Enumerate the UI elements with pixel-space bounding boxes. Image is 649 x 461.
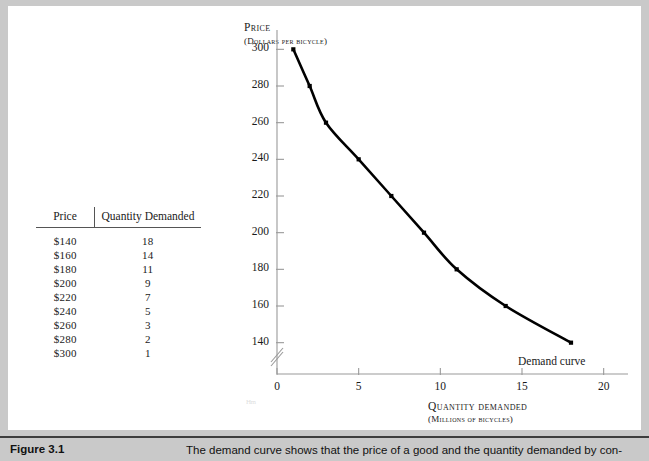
- cell-price: $200: [36, 276, 94, 290]
- data-point-marker: [455, 267, 459, 271]
- figure-number: Figure 3.1: [10, 443, 64, 455]
- data-point-marker: [504, 304, 508, 308]
- table-row: $14018: [36, 228, 201, 249]
- table-row: $2009: [36, 276, 201, 290]
- table-row: $2603: [36, 318, 201, 332]
- demand-curve-chart: Price (Dollars per bicycle) Quantity dem…: [230, 14, 640, 426]
- data-point-marker: [308, 84, 312, 88]
- table-row: $18011: [36, 262, 201, 276]
- cell-price: $160: [36, 248, 94, 262]
- y-axis-tick-label: 280: [241, 78, 269, 90]
- cell-price: $260: [36, 318, 94, 332]
- y-axis-tick-label: 180: [241, 261, 269, 273]
- table-row: $2802: [36, 332, 201, 346]
- data-point-marker: [291, 47, 295, 51]
- cell-price: $180: [36, 262, 94, 276]
- cell-quantity-demanded: 2: [94, 332, 201, 346]
- demand-schedule-table-wrapper: Price Quantity Demanded $14018$16014$180…: [36, 207, 201, 360]
- x-axis-tick-label: 0: [265, 380, 289, 392]
- y-axis-tick-label: 140: [241, 335, 269, 347]
- y-axis-tick-label: 240: [241, 151, 269, 163]
- data-point-marker: [422, 231, 426, 235]
- cell-price: $220: [36, 290, 94, 304]
- demand-schedule-table: Price Quantity Demanded $14018$16014$180…: [36, 207, 201, 360]
- x-axis-tick-label: 15: [510, 380, 534, 392]
- table-row: $2207: [36, 290, 201, 304]
- data-point-marker: [357, 157, 361, 161]
- y-axis-tick-label: 220: [241, 188, 269, 200]
- demand-curve-annotation: Demand curve: [518, 355, 585, 367]
- cell-quantity-demanded: 3: [94, 318, 201, 332]
- data-point-markers: [291, 47, 573, 345]
- cell-price: $240: [36, 304, 94, 318]
- table-row: $3001: [36, 346, 201, 360]
- figure-panel: Price Quantity Demanded $14018$16014$180…: [8, 6, 641, 430]
- table-header: Price Quantity Demanded: [36, 207, 201, 228]
- figure-caption-text: The demand curve shows that the price of…: [186, 443, 644, 458]
- column-header-quantity-demanded: Quantity Demanded: [94, 207, 201, 228]
- data-point-marker: [569, 341, 573, 345]
- cell-quantity-demanded: 7: [94, 290, 201, 304]
- cell-quantity-demanded: 18: [94, 228, 201, 249]
- demand-curve-line: [293, 49, 571, 342]
- table-header-row: Price Quantity Demanded: [36, 207, 201, 228]
- y-axis-tick-label: 160: [241, 298, 269, 310]
- cell-price: $300: [36, 346, 94, 360]
- x-axis-tick-label: 5: [347, 380, 371, 392]
- x-axis-tick-label: 20: [592, 380, 616, 392]
- cell-price: $140: [36, 228, 94, 249]
- figure-root: Price Quantity Demanded $14018$16014$180…: [0, 0, 649, 461]
- table-row: $2405: [36, 304, 201, 318]
- cell-quantity-demanded: 14: [94, 248, 201, 262]
- y-axis-tick-label: 300: [241, 41, 269, 53]
- y-axis-tick-label: 260: [241, 115, 269, 127]
- column-header-price: Price: [36, 207, 94, 228]
- scan-artifact: Hm: [246, 398, 268, 406]
- cell-price: $280: [36, 332, 94, 346]
- data-point-marker: [389, 194, 393, 198]
- y-axis-tick-label: 200: [241, 225, 269, 237]
- cell-quantity-demanded: 9: [94, 276, 201, 290]
- x-axis-tick-label: 10: [428, 380, 452, 392]
- cell-quantity-demanded: 5: [94, 304, 201, 318]
- cell-quantity-demanded: 1: [94, 346, 201, 360]
- figure-caption-band: Figure 3.1 The demand curve shows that t…: [0, 436, 649, 461]
- cell-quantity-demanded: 11: [94, 262, 201, 276]
- data-point-marker: [324, 121, 328, 125]
- table-body: $14018$16014$18011$2009$2207$2405$2603$2…: [36, 228, 201, 361]
- table-row: $16014: [36, 248, 201, 262]
